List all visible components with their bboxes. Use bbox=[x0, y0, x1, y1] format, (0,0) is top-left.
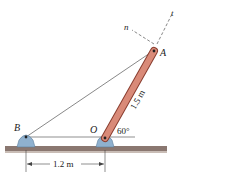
pin-A bbox=[153, 50, 156, 53]
pin-O bbox=[104, 137, 107, 140]
label-B: B bbox=[14, 122, 20, 133]
pin-B bbox=[25, 136, 28, 139]
label-O: O bbox=[90, 124, 97, 135]
mechanism-diagram: A B O n t 1.5 m 60° 1.2 m bbox=[0, 0, 225, 188]
nt-axes bbox=[132, 14, 172, 44]
base-distance-label: 1.2 m bbox=[53, 159, 74, 169]
label-n: n bbox=[124, 22, 129, 32]
angle-label: 60° bbox=[117, 126, 130, 136]
bar-OA bbox=[105, 51, 154, 138]
label-A: A bbox=[159, 47, 167, 58]
label-t: t bbox=[171, 8, 174, 18]
